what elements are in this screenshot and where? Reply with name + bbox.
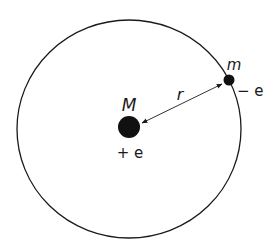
radius-label: r: [177, 85, 185, 104]
electron: [224, 75, 235, 86]
bohr-atom-diagram: M + e r m − e: [0, 0, 275, 246]
electron-charge-label: − e: [237, 82, 264, 100]
nucleus-mass-label: M: [122, 95, 137, 115]
electron-mass-label: m: [227, 56, 242, 74]
nucleus: [118, 116, 140, 138]
nucleus-charge-label: + e: [117, 144, 144, 162]
